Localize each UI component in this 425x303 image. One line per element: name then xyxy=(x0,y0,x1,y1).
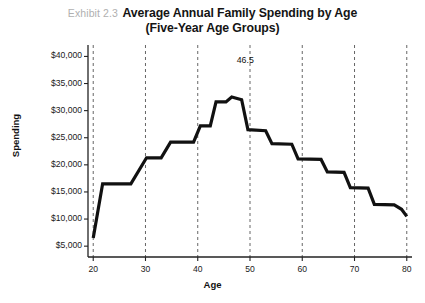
x-tick-label-50: 50 xyxy=(235,264,265,274)
y-tick-label-5000: $5,000 xyxy=(26,240,82,250)
gridlines-group xyxy=(93,45,407,257)
x-tick-label-80: 80 xyxy=(392,264,422,274)
y-tick-label-30000: $30,000 xyxy=(26,105,82,115)
x-tick-label-60: 60 xyxy=(287,264,317,274)
chart-plot-area xyxy=(0,0,425,303)
y-tick-label-35000: $35,000 xyxy=(26,78,82,88)
y-tick-label-15000: $15,000 xyxy=(26,186,82,196)
x-tick-label-30: 30 xyxy=(130,264,160,274)
x-tick-label-40: 40 xyxy=(183,264,213,274)
y-tick-label-25000: $25,000 xyxy=(26,132,82,142)
x-tick-label-20: 20 xyxy=(78,264,108,274)
y-tick-label-20000: $20,000 xyxy=(26,159,82,169)
x-tick-label-70: 70 xyxy=(340,264,370,274)
y-tick-label-40000: $40,000 xyxy=(26,50,82,60)
chart-figure: Exhibit 2.3 Average Annual Family Spendi… xyxy=(0,0,425,303)
tick-marks-group xyxy=(84,56,407,261)
peak-annotation: 46.5 xyxy=(237,55,254,65)
y-tick-label-10000: $10,000 xyxy=(26,213,82,223)
